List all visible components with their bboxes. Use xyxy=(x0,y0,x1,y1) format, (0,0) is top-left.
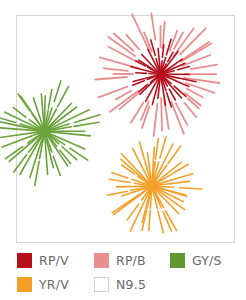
gy-s-burst-ray xyxy=(74,122,99,126)
color-legend: RP∕V RP∕B GY∕S YR∕V N9.5 xyxy=(17,248,242,296)
yr-v-burst-ray xyxy=(158,211,163,233)
rp-b-burst-ray xyxy=(181,43,211,61)
legend-label-rp-v: RP∕V xyxy=(39,253,69,268)
yr-v-burst-ray xyxy=(112,173,128,178)
gy-s-burst-ray xyxy=(35,161,39,185)
gy-s-burst-ray xyxy=(49,90,52,109)
rp-v-burst-core xyxy=(157,71,164,78)
legend-item-rp-b: RP∕B xyxy=(94,253,170,268)
gy-s-burst xyxy=(0,81,100,186)
gy-s-burst-core xyxy=(39,126,50,137)
legend-item-n9-5: N9.5 xyxy=(94,277,170,292)
rp-v-burst-ray xyxy=(167,93,172,107)
gy-s-burst-ray xyxy=(13,108,26,118)
gy-s-burst-ray xyxy=(9,133,43,162)
yr-v-burst-ray xyxy=(140,142,145,160)
rp-v-burst xyxy=(131,39,196,107)
yr-v-burst-ray xyxy=(174,164,188,173)
gy-s-burst-ray xyxy=(14,155,27,172)
gy-s-burst-ray xyxy=(54,81,61,102)
rp-b-burst-ray xyxy=(154,104,158,136)
legend-label-n9-5: N9.5 xyxy=(116,277,146,292)
legend-item-yr-v: YR∕V xyxy=(17,277,94,292)
gy-s-burst-ray xyxy=(21,96,43,128)
gy-s-burst-ray xyxy=(53,156,60,175)
swatch-gy-s xyxy=(170,253,185,268)
legend-row-1: RP∕V RP∕B GY∕S xyxy=(17,248,242,272)
rp-b-burst-ray xyxy=(151,13,155,39)
swatch-yr-v xyxy=(17,277,32,292)
swatch-n9-5 xyxy=(94,277,109,292)
swatch-rp-v xyxy=(17,253,32,268)
rp-v-burst-ray xyxy=(178,67,190,70)
yr-v-burst-ray xyxy=(156,138,159,159)
rp-v-burst-ray xyxy=(136,73,147,74)
rp-b-burst-ray xyxy=(161,98,162,131)
rp-b-burst-ray xyxy=(176,103,187,125)
gy-s-burst-ray xyxy=(58,86,69,107)
legend-label-gy-s: GY∕S xyxy=(192,253,222,268)
swatch-rp-b xyxy=(94,253,109,268)
yr-v-burst-ray xyxy=(109,179,130,182)
gy-s-burst-ray xyxy=(70,148,88,160)
legend-label-yr-v: YR∕V xyxy=(39,277,69,292)
yr-v-burst-core xyxy=(147,181,157,191)
yr-v-burst xyxy=(108,137,202,233)
yr-v-burst-ray xyxy=(116,186,151,187)
legend-item-gy-s: GY∕S xyxy=(170,253,222,268)
yr-v-burst-ray xyxy=(160,137,166,158)
legend-item-rp-v: RP∕V xyxy=(17,253,94,268)
rp-b-burst-ray xyxy=(191,65,217,70)
yr-v-burst-ray xyxy=(179,188,202,189)
legend-row-2: YR∕V N9.5 xyxy=(17,272,242,296)
rp-b-burst-ray xyxy=(95,77,127,80)
yr-v-burst-ray xyxy=(149,210,150,230)
legend-label-rp-b: RP∕B xyxy=(116,253,146,268)
gy-s-burst-ray xyxy=(62,147,77,160)
rp-v-burst-ray xyxy=(151,40,155,56)
rp-b-burst-ray xyxy=(104,68,128,71)
